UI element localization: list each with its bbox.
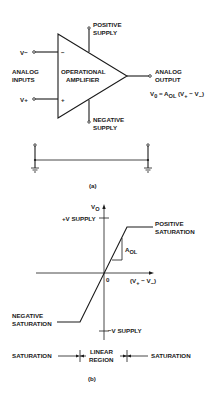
pos-sat-label-2: SATURATION <box>155 228 195 235</box>
figure-b: VO +V SUPPLY 0 (V+ − V−) AOL POSITIVE SA… <box>12 203 195 382</box>
inverting-sign: − <box>61 49 65 56</box>
negative-supply-label-2: SUPPLY <box>93 124 118 131</box>
positive-supply-label-1: POSITIVE <box>93 21 122 28</box>
ground-icon <box>144 168 152 172</box>
x-axis-arrow-icon <box>149 271 154 274</box>
region-indicator: SATURATION LINEAR REGION SATURATION <box>12 348 191 363</box>
positive-supply-label-2: SUPPLY <box>93 29 118 36</box>
ground-network <box>31 144 152 172</box>
negative-supply-terminal <box>88 121 90 123</box>
neg-sat-label-2: SATURATION <box>12 320 52 327</box>
output-terminal <box>149 75 152 78</box>
region-mid-label-2: REGION <box>89 356 114 363</box>
inverting-input-terminal <box>33 51 36 54</box>
origin-label: 0 <box>106 276 110 283</box>
caption-a: (a) <box>89 182 97 189</box>
y-axis-arrow-icon <box>102 204 105 209</box>
region-right-label: SATURATION <box>151 352 191 359</box>
pos-supply-label: +V SUPPLY <box>62 215 97 222</box>
gain-equation: V0 = AOL (V+ − V−) <box>150 90 204 99</box>
neg-sat-label-1: NEGATIVE <box>12 312 43 319</box>
analog-output-label-1: ANALOG <box>155 68 182 75</box>
noninverting-input-label: V+ <box>20 96 28 103</box>
caption-b: (b) <box>88 375 96 382</box>
op-amp-diagram: V− − V+ + ANALOG INPUTS OPERATIONAL AMPL… <box>0 0 219 399</box>
op-amp-label-2: AMPLIFIER <box>66 76 100 83</box>
neg-supply-label: −V SUPPLY <box>108 327 143 334</box>
noninverting-sign: + <box>61 96 65 103</box>
slope-label: AOL <box>125 246 138 255</box>
inverting-input-label: V− <box>20 49 28 56</box>
y-axis-label: VO <box>91 203 100 212</box>
region-left-label: SATURATION <box>12 352 52 359</box>
positive-supply-terminal <box>88 27 90 29</box>
noninverting-input-terminal <box>33 98 36 101</box>
analog-output-label-2: OUTPUT <box>155 76 181 83</box>
transfer-curve <box>57 227 153 322</box>
x-axis-label: (V+ − V−) <box>130 277 156 286</box>
ground-icon <box>31 168 39 172</box>
analog-inputs-label-1: ANALOG <box>12 68 39 75</box>
op-amp-label-1: OPERATIONAL <box>61 68 106 75</box>
pos-sat-label-1: POSITIVE <box>155 220 184 227</box>
negative-supply-label-1: NEGATIVE <box>93 116 124 123</box>
region-mid-label-1: LINEAR <box>90 348 114 355</box>
analog-inputs-label-2: INPUTS <box>12 76 35 83</box>
figure-a: V− − V+ + ANALOG INPUTS OPERATIONAL AMPL… <box>12 21 204 189</box>
